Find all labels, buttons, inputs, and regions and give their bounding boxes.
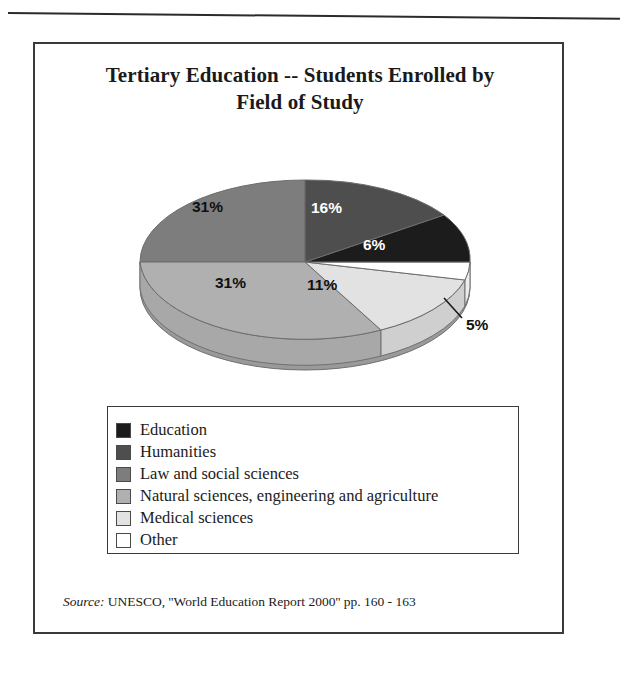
legend-swatch-natural [116,489,131,504]
source-label: Source: [63,594,104,609]
pie-slice-law [140,180,305,262]
legend-label-natural: Natural sciences, engineering and agricu… [140,488,438,505]
pie-label-natural: 31% [215,274,246,292]
legend-swatch-education [116,423,131,438]
pie-chart: 31% 16% 6% 31% 11% 5% [95,152,515,372]
pie-label-education: 6% [363,236,385,254]
legend-label-medical: Medical sciences [140,510,253,527]
chart-title-line-2: Field of Study [236,90,363,114]
legend-label-humanities: Humanities [140,444,216,461]
figure-container: Tertiary Education -- Students Enrolled … [33,42,564,634]
pie-top-face [140,180,470,339]
chart-legend: Education Humanities Law and social scie… [107,406,519,554]
legend-item-education: Education [116,419,518,441]
pie-label-law: 31% [192,198,223,216]
page-top-rule [8,12,620,20]
legend-swatch-other [116,533,131,548]
pie-label-medical: 11% [307,276,337,294]
legend-swatch-humanities [116,445,131,460]
legend-item-humanities: Humanities [116,441,518,463]
pie-label-humanities: 16% [311,199,342,217]
legend-label-other: Other [140,532,178,549]
legend-swatch-law [116,467,131,482]
legend-label-law: Law and social sciences [140,466,299,483]
legend-item-natural: Natural sciences, engineering and agricu… [116,485,518,507]
source-text: UNESCO, ''World Education Report 2000'' … [108,594,416,609]
pie-label-other: 5% [466,316,488,334]
legend-item-law: Law and social sciences [116,463,518,485]
legend-item-medical: Medical sciences [116,507,518,529]
source-note: Source: UNESCO, ''World Education Report… [63,594,416,610]
legend-item-other: Other [116,529,518,551]
chart-title: Tertiary Education -- Students Enrolled … [75,62,525,116]
pie-chart-graphic [95,152,515,372]
legend-label-education: Education [140,422,207,439]
legend-swatch-medical [116,511,131,526]
chart-title-line-1: Tertiary Education -- Students Enrolled … [106,63,495,87]
